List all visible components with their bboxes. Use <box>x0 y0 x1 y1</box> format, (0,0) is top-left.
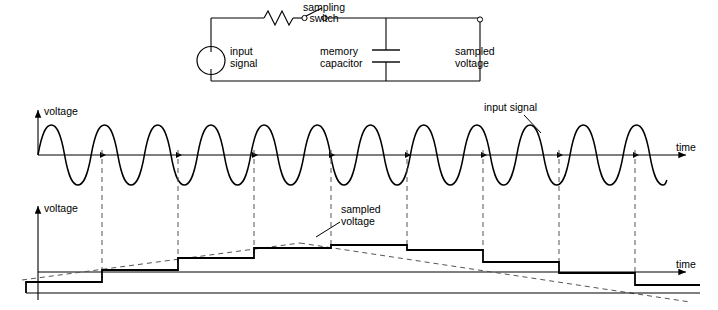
bottom-voltage-axis-label: voltage <box>44 202 78 214</box>
figure-root: sampling switch input signal memory capa… <box>0 0 718 310</box>
sampled-voltage-callout-line2: voltage <box>341 215 375 227</box>
sampled-voltage-callout-leader <box>316 222 340 237</box>
sampled-voltage-panel: voltage time sampled voltage <box>0 0 718 310</box>
sampled-voltage-callout-line1: sampled <box>341 203 381 215</box>
bottom-time-axis-label: time <box>676 258 696 270</box>
